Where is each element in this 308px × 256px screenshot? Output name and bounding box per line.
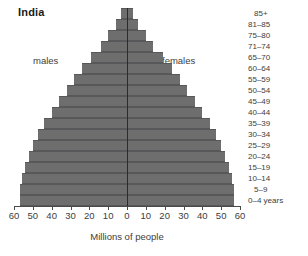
bar-females-71-74 bbox=[127, 41, 153, 52]
age-group-label: 55–59 bbox=[248, 74, 306, 85]
age-group-labels: 85+81–8575–8071–7465–7060–6455–5950–5445… bbox=[248, 8, 306, 206]
age-group-label: 81–85 bbox=[248, 19, 306, 30]
bar-females-55-59 bbox=[127, 74, 180, 85]
age-group-label: 35–39 bbox=[248, 118, 306, 129]
bar-females-35-39 bbox=[127, 118, 210, 129]
bar-males-35-39 bbox=[44, 118, 127, 129]
age-group-label: 0–4 years bbox=[248, 195, 306, 206]
x-axis-tick-label: 30 bbox=[65, 210, 76, 221]
bar-females-0-4------ bbox=[127, 195, 234, 206]
bar-males-81-85 bbox=[116, 19, 127, 30]
bar-males-71-74 bbox=[101, 41, 127, 52]
bar-females-15-19 bbox=[127, 162, 229, 173]
plot-area bbox=[14, 8, 240, 206]
age-group-label: 15–19 bbox=[248, 162, 306, 173]
bar-males-75-80 bbox=[108, 30, 127, 41]
x-axis-tick-label: 20 bbox=[84, 210, 95, 221]
age-group-label: 5–9 bbox=[248, 184, 306, 195]
center-axis-line bbox=[127, 8, 128, 206]
population-pyramid-chart: India males females Millions of people 8… bbox=[0, 0, 308, 256]
age-group-label: 60–64 bbox=[248, 63, 306, 74]
age-group-label: 71–74 bbox=[248, 41, 306, 52]
bar-males-60-64 bbox=[82, 63, 127, 74]
bar-males-25-29 bbox=[33, 140, 127, 151]
age-group-label: 20–24 bbox=[248, 151, 306, 162]
x-axis-tick-label: 0 bbox=[124, 210, 129, 221]
age-group-label: 65–70 bbox=[248, 52, 306, 63]
bar-females-45-49 bbox=[127, 96, 195, 107]
bar-males-15-19 bbox=[25, 162, 127, 173]
x-axis-tick-label: 40 bbox=[46, 210, 57, 221]
age-group-label: 40–44 bbox=[248, 107, 306, 118]
bar-males-30-34 bbox=[38, 129, 127, 140]
bar-females-5-9 bbox=[127, 184, 234, 195]
age-group-label: 10–14 bbox=[248, 173, 306, 184]
x-axis-tick-label: 30 bbox=[178, 210, 189, 221]
bar-males-10-14 bbox=[22, 173, 127, 184]
bar-males-20-24 bbox=[29, 151, 127, 162]
bar-females-50-54 bbox=[127, 85, 187, 96]
age-group-label: 50–54 bbox=[248, 85, 306, 96]
x-axis-title: Millions of people bbox=[0, 231, 254, 242]
bar-females-75-80 bbox=[127, 30, 146, 41]
bar-males-0-4------ bbox=[20, 195, 127, 206]
x-axis-tick-label: 20 bbox=[159, 210, 170, 221]
x-axis-tick-label: 10 bbox=[103, 210, 114, 221]
age-group-label: 75–80 bbox=[248, 30, 306, 41]
bar-females-40-44 bbox=[127, 107, 202, 118]
bar-females-81-85 bbox=[127, 19, 138, 30]
bar-males-40-44 bbox=[52, 107, 127, 118]
bar-females-60-64 bbox=[127, 63, 172, 74]
bar-males-55-59 bbox=[74, 74, 127, 85]
x-axis-tick-label: 50 bbox=[216, 210, 227, 221]
bar-females-20-24 bbox=[127, 151, 225, 162]
x-axis-tick-label: 60 bbox=[9, 210, 20, 221]
x-axis-tick-label: 50 bbox=[28, 210, 39, 221]
bar-females-25-29 bbox=[127, 140, 221, 151]
bar-males-5-9 bbox=[20, 184, 127, 195]
bar-females-65-70 bbox=[127, 52, 163, 63]
age-group-label: 25–29 bbox=[248, 140, 306, 151]
x-axis-tick-label: 10 bbox=[141, 210, 152, 221]
x-axis-tick-label: 40 bbox=[197, 210, 208, 221]
bar-males-45-49 bbox=[59, 96, 127, 107]
x-axis-tick-label: 60 bbox=[235, 210, 246, 221]
bar-males-50-54 bbox=[67, 85, 127, 96]
bar-females-30-34 bbox=[127, 129, 216, 140]
age-group-label: 45–49 bbox=[248, 96, 306, 107]
bar-males-65-70 bbox=[91, 52, 127, 63]
bar-females-10-14 bbox=[127, 173, 232, 184]
age-group-label: 30–34 bbox=[248, 129, 306, 140]
age-group-label: 85+ bbox=[248, 8, 306, 19]
